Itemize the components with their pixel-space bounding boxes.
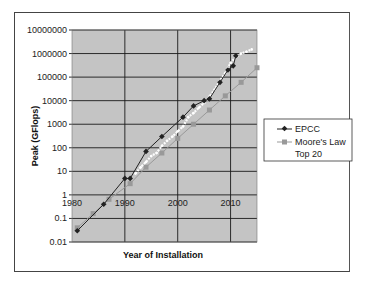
data-point	[159, 151, 164, 156]
y-tick-label: 0.1	[54, 213, 67, 223]
legend: EPCC Moore's Law Top 20	[264, 119, 352, 161]
data-point	[145, 161, 148, 164]
data-point	[166, 139, 169, 142]
y-tick-label: 10000000	[27, 25, 67, 35]
y-tick-label: 1000000	[32, 49, 67, 59]
data-point	[239, 80, 244, 85]
data-point	[150, 155, 153, 158]
data-point	[245, 50, 248, 53]
data-point	[134, 172, 137, 175]
plot-area	[72, 30, 257, 242]
x-tick-label: 1980	[62, 198, 82, 208]
chart-svg: 1000000010000001000001000010001001010.10…	[0, 0, 367, 286]
data-point	[240, 52, 243, 55]
data-point	[191, 122, 196, 127]
legend-label-top20: Top 20	[295, 149, 322, 159]
data-point	[176, 130, 179, 133]
x-axis-title: Year of Installation	[123, 250, 203, 260]
data-point	[144, 165, 149, 170]
x-tick-label: 2000	[168, 198, 188, 208]
y-axis-title: Peak (GFlops)	[30, 106, 40, 167]
data-point	[198, 106, 201, 109]
data-point	[192, 112, 195, 115]
data-point	[182, 125, 185, 128]
data-point	[175, 136, 180, 141]
data-point	[255, 65, 260, 70]
y-tick-label: 100000	[37, 72, 67, 82]
data-point	[229, 62, 232, 65]
data-point	[207, 108, 212, 113]
data-point	[128, 181, 133, 186]
data-point	[250, 48, 253, 51]
x-tick-label: 2010	[221, 198, 241, 208]
data-point	[223, 93, 228, 98]
y-tick-label: 10000	[42, 96, 67, 106]
data-point	[171, 135, 174, 138]
y-tick-label: 0.01	[49, 237, 67, 247]
data-point	[155, 152, 158, 155]
data-point	[139, 166, 142, 169]
legend-label-moores-law: Moore's Law	[295, 137, 346, 147]
legend-item-top20: Top 20	[295, 149, 322, 159]
square-marker-icon	[282, 140, 287, 145]
y-tick-label: 10	[57, 166, 67, 176]
legend-label-epcc: EPCC	[295, 124, 321, 134]
x-tick-label: 1990	[115, 198, 135, 208]
y-tick-label: 100	[52, 143, 67, 153]
data-point	[161, 145, 164, 148]
data-point	[187, 116, 190, 119]
y-tick-label: 1000	[47, 119, 67, 129]
